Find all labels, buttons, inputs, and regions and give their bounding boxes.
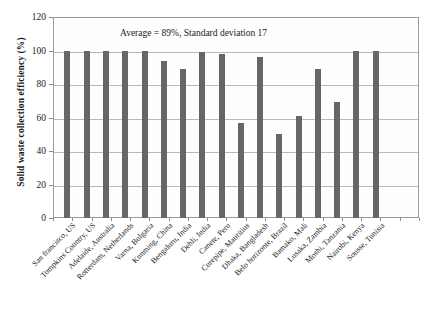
- y-tick-label: 40: [0, 146, 46, 156]
- y-tick-label: 100: [0, 46, 46, 56]
- bar: [161, 61, 167, 218]
- y-tick-label: 80: [0, 79, 46, 89]
- chart-annotation: Average = 89%, Standard deviation 17: [120, 28, 267, 38]
- bar: [199, 52, 205, 218]
- bar: [142, 51, 148, 219]
- bar: [353, 51, 359, 219]
- bar-chart: Solid waste collection efficiency (%) 12…: [0, 0, 436, 325]
- bar: [180, 69, 186, 218]
- y-tick-label: 120: [0, 12, 46, 22]
- bars-layer: [53, 17, 419, 218]
- x-axis-labels: San francisco, USTompkins Country, USAde…: [0, 221, 436, 325]
- bar: [373, 51, 379, 219]
- bar: [84, 51, 90, 219]
- bar: [276, 134, 282, 218]
- bar: [315, 69, 321, 218]
- bar: [103, 51, 109, 219]
- bar: [257, 57, 263, 218]
- bar: [122, 51, 128, 219]
- bar: [238, 123, 244, 218]
- bar: [334, 102, 340, 218]
- bar: [219, 54, 225, 218]
- bar: [296, 116, 302, 218]
- y-tick-label: 60: [0, 113, 46, 123]
- y-tick-label: 20: [0, 180, 46, 190]
- bar: [64, 51, 70, 219]
